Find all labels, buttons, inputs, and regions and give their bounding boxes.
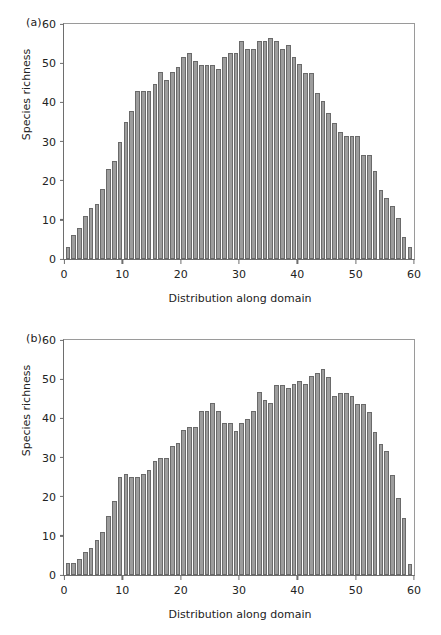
y-tick-label: 30: [42, 451, 64, 464]
figure-sheet: (a) Species richness 0102030405060 01020…: [0, 0, 441, 635]
x-tick-label: 20: [174, 259, 188, 281]
bar: [326, 113, 331, 259]
x-tick-label: 0: [61, 259, 68, 281]
x-tick-label: 50: [349, 575, 363, 597]
bar: [350, 136, 355, 259]
bar: [153, 461, 158, 575]
bar: [106, 516, 111, 575]
bar: [210, 65, 215, 259]
bar: [100, 532, 105, 575]
bar: [338, 132, 343, 259]
bar: [263, 41, 268, 259]
bar: [268, 403, 273, 575]
bar: [193, 61, 198, 259]
bar: [263, 400, 268, 575]
bar: [129, 111, 134, 259]
bar: [164, 458, 169, 576]
bar: [315, 373, 320, 575]
bar: [297, 64, 302, 259]
bar: [83, 552, 88, 576]
bar: [297, 381, 302, 575]
bar: [187, 427, 192, 575]
bar: [245, 49, 250, 259]
bar: [361, 155, 366, 259]
bar: [66, 563, 71, 575]
bar: [147, 470, 152, 575]
bar: [257, 41, 262, 259]
y-tick-label: 60: [42, 18, 64, 31]
bar: [193, 427, 198, 575]
bar: [71, 563, 76, 575]
bar: [89, 548, 94, 575]
bar: [129, 477, 134, 575]
y-tick-label: 10: [42, 529, 64, 542]
bar: [396, 218, 401, 259]
bar: [181, 430, 186, 575]
bar: [239, 41, 244, 259]
bar: [199, 411, 204, 575]
bar: [379, 190, 384, 259]
bar: [135, 477, 140, 575]
y-tick-label: 20: [42, 174, 64, 187]
y-axis-label-b: Species richness: [20, 341, 33, 481]
bar: [361, 404, 366, 575]
bar: [384, 451, 389, 575]
bar: [141, 91, 146, 259]
bar: [176, 443, 181, 575]
bar: [384, 198, 389, 259]
bar: [396, 498, 401, 575]
x-tick-label: 50: [349, 259, 363, 281]
bar: [309, 73, 314, 259]
bar: [95, 204, 100, 259]
bar: [251, 49, 256, 259]
bar: [280, 385, 285, 575]
bar: [100, 189, 105, 260]
y-tick-label: 30: [42, 135, 64, 148]
bar: [222, 423, 227, 575]
x-tick-label: 20: [174, 575, 188, 597]
bar: [321, 101, 326, 259]
bar: [251, 411, 256, 575]
bar: [373, 171, 378, 259]
bar: [71, 235, 76, 259]
plot-area-b: 0102030405060 0102030405060: [63, 339, 415, 576]
bar: [373, 432, 378, 575]
bar: [292, 384, 297, 575]
bar: [408, 247, 413, 259]
bar: [268, 38, 273, 259]
bar: [286, 45, 291, 259]
bar: [216, 69, 221, 259]
x-tick-label: 40: [290, 575, 304, 597]
chart-panel-a: (a) Species richness 0102030405060 01020…: [0, 4, 441, 316]
y-axis-label-a: Species richness: [20, 25, 33, 165]
bar: [326, 377, 331, 575]
bar: [199, 65, 204, 259]
bar: [344, 136, 349, 259]
bar: [83, 216, 88, 259]
x-tick-label: 30: [232, 259, 246, 281]
bar: [95, 540, 100, 575]
bar: [280, 49, 285, 259]
bar: [338, 393, 343, 575]
bar: [239, 423, 244, 575]
bar: [234, 53, 239, 259]
bar: [222, 57, 227, 259]
bar: [355, 136, 360, 259]
bar: [408, 564, 413, 575]
bar: [321, 369, 326, 575]
bar: [350, 396, 355, 575]
chart-panel-b: (b) Species richness 0102030405060 01020…: [0, 320, 441, 632]
bar-series-b: [64, 340, 414, 575]
bar: [135, 91, 140, 259]
bar: [181, 57, 186, 259]
bar: [112, 501, 117, 575]
bar: [332, 396, 337, 575]
bar: [390, 206, 395, 259]
x-tick-label: 60: [407, 575, 421, 597]
bar: [66, 247, 71, 259]
bar: [205, 65, 210, 259]
bar: [315, 93, 320, 259]
bar: [141, 474, 146, 575]
x-tick-label: 10: [115, 575, 129, 597]
bar: [89, 208, 94, 259]
